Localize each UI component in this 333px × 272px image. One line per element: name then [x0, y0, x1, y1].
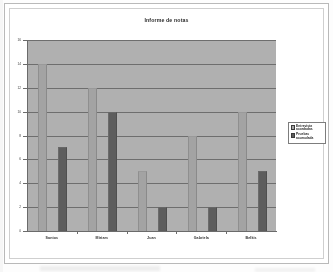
- legend-item-label: Pruebas acumulada: [296, 133, 324, 141]
- gridline: [28, 88, 276, 89]
- legend-swatch-icon: [291, 133, 296, 138]
- scanned-page: Informe de notas 0246810121416 SantosMir…: [0, 0, 333, 272]
- bar-1-2: [158, 207, 167, 231]
- bar-0-3: [188, 136, 197, 232]
- bar-1-1: [108, 112, 117, 231]
- y-axis-tick-label: 16: [9, 38, 21, 42]
- x-axis-category-label: Juan: [129, 236, 175, 240]
- x-axis-category-label: Gabriela: [178, 236, 224, 240]
- y-axis-tick-label: 4: [9, 181, 21, 185]
- y-axis-tick-label: 2: [9, 205, 21, 209]
- scan-smudge-artifact: [40, 266, 160, 271]
- x-axis-line: [27, 231, 277, 232]
- gridline: [28, 64, 276, 65]
- x-axis-tick: [77, 231, 78, 234]
- x-axis-tick: [127, 231, 128, 234]
- y-axis-tick-label: 8: [9, 134, 21, 138]
- bar-0-1: [88, 88, 97, 231]
- x-axis-category-label: Miriam: [79, 236, 125, 240]
- bar-1-0: [58, 147, 67, 231]
- bar-0-0: [38, 64, 47, 231]
- legend-item[interactable]: Pruebas acumulada: [291, 133, 325, 141]
- plot-area: [27, 40, 276, 231]
- x-axis-tick: [226, 231, 227, 234]
- y-axis-tick-label: 14: [9, 62, 21, 66]
- x-axis-category-label: Santos: [29, 236, 75, 240]
- x-axis-category-label: Belkis: [228, 236, 274, 240]
- bar-0-2: [138, 171, 147, 231]
- chart-legend[interactable]: Entrevista acordadasPruebas acumulada: [288, 122, 326, 144]
- y-axis-tick-label: 6: [9, 157, 21, 161]
- legend-swatch-icon: [291, 125, 296, 130]
- gridline: [28, 40, 276, 41]
- y-axis-line: [27, 40, 28, 232]
- scan-edge-artifact: [0, 0, 3, 272]
- bar-0-4: [238, 112, 247, 231]
- scan-smudge-artifact: [255, 268, 315, 272]
- bar-1-3: [208, 207, 217, 231]
- bar-1-4: [258, 171, 267, 231]
- chart-title: Informe de notas: [0, 17, 333, 23]
- y-axis-tick-label: 0: [9, 229, 21, 233]
- y-axis-tick-label: 10: [9, 110, 21, 114]
- y-axis-tick-label: 12: [9, 86, 21, 90]
- x-axis-tick: [176, 231, 177, 234]
